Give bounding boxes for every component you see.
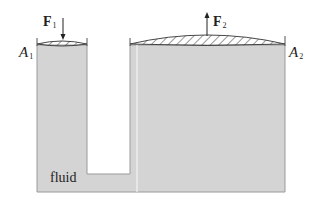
force-label-f2: F2 <box>213 15 227 30</box>
arrow-down-icon <box>61 18 66 40</box>
hydraulic-press-diagram <box>0 0 314 201</box>
fluid-label: fluid <box>50 171 76 185</box>
left-piston <box>37 41 87 46</box>
right-piston <box>130 35 285 46</box>
area-label-a1: A1 <box>19 45 33 61</box>
force-label-f1: F1 <box>43 15 57 30</box>
arrow-up-icon <box>205 12 210 36</box>
area-label-a2: A2 <box>289 45 303 61</box>
